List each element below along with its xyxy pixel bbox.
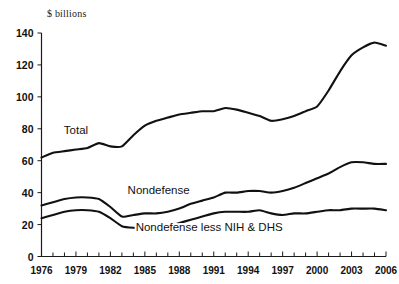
- x-tick-label: 1985: [134, 265, 157, 276]
- x-tick-label: 2006: [375, 265, 398, 276]
- x-tick-label: 2003: [340, 265, 363, 276]
- y-tick-label: 60: [22, 155, 34, 167]
- x-tick-label: 1988: [168, 265, 191, 276]
- y-tick-label: 120: [16, 59, 34, 71]
- line-chart: 0204060801001201401976197919821985198819…: [0, 0, 399, 284]
- x-tick-label: 1979: [65, 265, 88, 276]
- series-label-2: Nondefense: [128, 184, 190, 196]
- y-tick-label: 20: [22, 219, 34, 231]
- series-label-1: Total: [64, 124, 88, 136]
- x-tick-label: 1982: [99, 265, 122, 276]
- y-tick-label: 140: [16, 27, 34, 39]
- x-tick-label: 1976: [30, 265, 53, 276]
- y-tick-label: 80: [22, 123, 34, 135]
- series-label-3: Nondefense less NIH & DHS: [136, 221, 283, 233]
- x-tick-label: 1991: [203, 265, 226, 276]
- y-tick-label: 100: [16, 91, 34, 103]
- chart-container: $ billions 02040608010012014019761979198…: [0, 0, 399, 284]
- series-line-1: [42, 43, 387, 158]
- x-tick-label: 2000: [306, 265, 329, 276]
- y-tick-label: 0: [28, 251, 34, 263]
- y-axis-unit-label: $ billions: [47, 8, 87, 19]
- x-tick-label: 1997: [272, 265, 295, 276]
- series-line-2: [42, 162, 387, 217]
- y-tick-label: 40: [22, 187, 34, 199]
- x-tick-label: 1994: [237, 265, 260, 276]
